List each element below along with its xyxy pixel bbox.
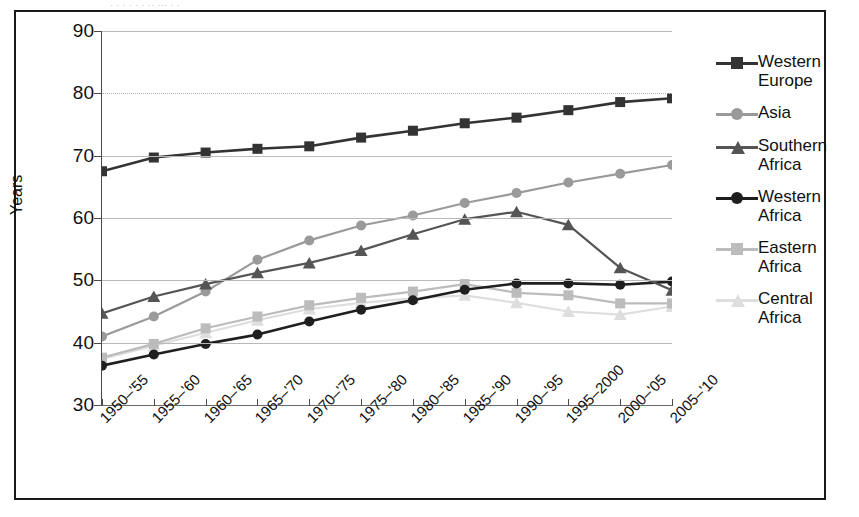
y-tick-label: 30 (6, 394, 94, 416)
x-tick-mark (206, 399, 207, 406)
x-tick-mark (568, 399, 569, 406)
data-point-marker (201, 339, 211, 349)
data-point-marker (408, 295, 418, 305)
square-icon (731, 57, 743, 69)
y-tick-label: 40 (6, 332, 94, 354)
gridline (102, 343, 672, 344)
data-point-marker (252, 144, 262, 154)
y-tick-label: 50 (6, 269, 94, 291)
data-point-marker (460, 118, 470, 128)
data-point-marker (563, 105, 573, 115)
data-point-marker (512, 113, 522, 123)
series-southern-africa (102, 206, 672, 319)
legend-label: Asia (758, 103, 791, 122)
data-point-marker (304, 316, 314, 326)
legend-label-line1: Eastern (758, 238, 817, 257)
data-point-marker (355, 244, 368, 256)
series-asia (102, 160, 672, 341)
legend-label-line1: Western (758, 52, 821, 71)
data-point-marker (667, 298, 672, 308)
data-point-marker (408, 211, 418, 221)
data-point-marker (408, 126, 418, 136)
x-tick-mark (465, 399, 466, 406)
data-point-marker (252, 330, 262, 340)
gridline (102, 93, 672, 94)
x-tick-mark (102, 399, 103, 406)
legend-label-line2: Africa (758, 206, 821, 225)
data-point-marker (666, 284, 673, 296)
data-point-marker (460, 285, 470, 295)
legend-item[interactable]: WesternEurope (716, 52, 846, 90)
y-axis-title: Years (8, 175, 26, 215)
legend-symbol (716, 291, 758, 309)
series-eastern-africa (102, 279, 672, 363)
plot-area (102, 31, 672, 405)
legend-item[interactable]: WesternAfrica (716, 187, 846, 225)
data-point-marker (615, 169, 625, 179)
x-tick-mark (672, 399, 673, 406)
data-point-marker (149, 311, 159, 321)
chart-legend: WesternEuropeAsiaSouthernAfricaWesternAf… (716, 52, 846, 340)
data-point-marker (201, 323, 211, 333)
y-tick-label: 90 (6, 20, 94, 42)
series-line (102, 98, 672, 171)
legend-label-line1: Central (758, 289, 813, 308)
y-tick-label: 80 (6, 82, 94, 104)
data-point-marker (615, 97, 625, 107)
legend-item[interactable]: EasternAfrica (716, 238, 846, 276)
data-point-marker (149, 350, 159, 360)
x-tick-mark (517, 399, 518, 406)
legend-item[interactable]: SouthernAfrica (716, 136, 846, 174)
y-tick-mark (94, 343, 101, 344)
legend-label-line2: Africa (758, 155, 827, 174)
data-point-marker (252, 255, 262, 265)
legend-label-line1: Western (758, 187, 821, 206)
data-point-marker (304, 235, 314, 245)
series-western-europe (102, 93, 672, 176)
circle-icon (731, 108, 743, 120)
circle-icon (731, 192, 743, 204)
gridline (102, 31, 672, 32)
square-icon (731, 243, 743, 255)
x-tick-mark (309, 399, 310, 406)
x-tick-mark (154, 399, 155, 406)
y-tick-mark (94, 218, 101, 219)
chart-figure: · · · · · · ·· ··· · · 90807060504030 Ye… (0, 0, 859, 517)
cropped-title-ink: · · · · · · ·· ··· · · (110, 0, 800, 8)
legend-item[interactable]: Asia (716, 103, 846, 123)
gridline (102, 156, 672, 157)
y-tick-mark (94, 93, 101, 94)
x-tick-mark (413, 399, 414, 406)
legend-label: EasternAfrica (758, 238, 817, 276)
x-tick-mark (257, 399, 258, 406)
data-point-marker (512, 288, 522, 298)
y-tick-mark (94, 31, 101, 32)
legend-symbol (716, 105, 758, 123)
data-point-marker (667, 277, 672, 287)
series-western-africa (102, 277, 672, 371)
x-tick-mark (361, 399, 362, 406)
gridline (102, 280, 672, 281)
x-axis-ticks (102, 399, 674, 407)
data-point-marker (304, 141, 314, 151)
triangle-icon (731, 141, 745, 154)
legend-symbol (716, 138, 758, 156)
data-point-marker (460, 198, 470, 208)
legend-label-line1: Asia (758, 103, 791, 122)
data-point-marker (102, 331, 107, 341)
triangle-icon (731, 294, 745, 307)
legend-label-line2: Europe (758, 71, 821, 90)
legend-symbol (716, 54, 758, 72)
data-point-marker (149, 339, 159, 349)
data-point-marker (563, 290, 573, 300)
data-point-marker (512, 188, 522, 198)
legend-symbol (716, 240, 758, 258)
data-point-marker (356, 220, 366, 230)
data-point-marker (615, 298, 625, 308)
data-point-marker (408, 287, 418, 297)
legend-label: WesternAfrica (758, 187, 821, 225)
legend-item[interactable]: CentralAfrica (716, 289, 846, 327)
data-point-marker (149, 153, 159, 163)
legend-label-line1: Southern (758, 136, 827, 155)
data-point-marker (102, 307, 109, 319)
